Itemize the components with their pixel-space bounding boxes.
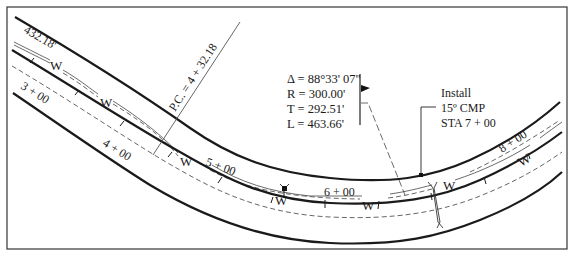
curve-radius: R = 300.00' (287, 87, 345, 101)
water-label-4: W (275, 193, 288, 208)
callout-install: Install (441, 86, 472, 100)
water-line-mid (63, 70, 432, 196)
callout-point (419, 173, 423, 177)
curve-tangent: T = 292.51' (287, 102, 344, 116)
pi-flag-icon (361, 85, 370, 92)
callout-cmp: 15º CMP (441, 101, 485, 115)
water-label-6: W (443, 178, 456, 193)
callout-leader (421, 107, 436, 175)
pc-label: P.C. = 4 + 32.18 (166, 41, 220, 114)
distance-label: 432.18' (22, 22, 59, 52)
callout-sta: STA 7 + 00 (441, 116, 496, 130)
station-3-label: 3 + 00 (18, 79, 52, 107)
curve-length: L = 463.66' (287, 117, 344, 131)
curve-delta: Δ = 88°33' 07" (287, 72, 361, 86)
cmp-culvert-icon (428, 182, 443, 228)
station-6-label: 6 + 00 (324, 185, 355, 199)
station-4-label: 4 + 00 (100, 136, 134, 164)
water-label-5: W (362, 198, 375, 213)
water-label-2: W (100, 95, 113, 110)
water-label-1: W (50, 58, 63, 73)
water-label-3: W (180, 154, 193, 169)
pc-line (153, 22, 240, 155)
curve-plan-diagram: P.C. = 4 + 32.18 432.18' 3 + 00 4 + 00 5… (0, 0, 573, 256)
